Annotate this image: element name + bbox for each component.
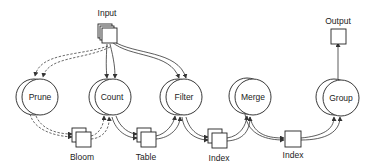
- edge-bloom-count: [91, 117, 109, 139]
- operator-count: Count: [89, 79, 131, 115]
- edge-merge-index2-2: [245, 114, 284, 140]
- input-node: Input: [98, 8, 118, 43]
- operator-prune: Prune: [16, 79, 58, 115]
- pipeline-diagram: Input Output Prune Count Filter Merge Gr…: [0, 0, 374, 168]
- state-label: Bloom: [70, 152, 94, 162]
- operator-label: Count: [101, 92, 124, 102]
- state-index-1: Index: [208, 129, 230, 163]
- operator-label: Merge: [241, 92, 265, 102]
- edge-merge-index2: [250, 117, 284, 138]
- edge-table-filter: [156, 117, 180, 139]
- edge-bloom-count-2: [91, 116, 104, 136]
- state-label: Index: [283, 150, 305, 160]
- edge-input-prune-2: [43, 47, 110, 77]
- edge-input-count-2: [110, 44, 115, 78]
- state-bloom: Bloom: [70, 128, 94, 162]
- edge-input-filter: [112, 42, 179, 78]
- input-label: Input: [98, 8, 118, 18]
- edge-input-filter-2: [113, 41, 186, 78]
- operator-filter: Filter: [160, 79, 202, 115]
- edge-filter-index1-2: [186, 117, 208, 137]
- edge-prune-bloom-2: [36, 116, 72, 134]
- edge-input-prune: [35, 46, 108, 76]
- edge-input-count: [106, 44, 107, 78]
- output-label: Output: [325, 16, 351, 26]
- operator-group: Group: [316, 79, 359, 116]
- state-table: Table: [136, 128, 157, 162]
- edge-index2-group-2: [301, 117, 340, 140]
- operator-label: Filter: [175, 92, 194, 102]
- output-node: Output: [325, 16, 351, 44]
- state-label: Index: [209, 153, 231, 163]
- operator-label: Prune: [29, 92, 52, 102]
- operator-label: Group: [329, 93, 353, 103]
- edge-count-table: [112, 117, 137, 138]
- operator-merge: Merge: [229, 78, 271, 115]
- state-label: Table: [136, 152, 157, 162]
- state-index-2: Index: [283, 131, 305, 160]
- edge-count-table-2: [116, 116, 137, 134]
